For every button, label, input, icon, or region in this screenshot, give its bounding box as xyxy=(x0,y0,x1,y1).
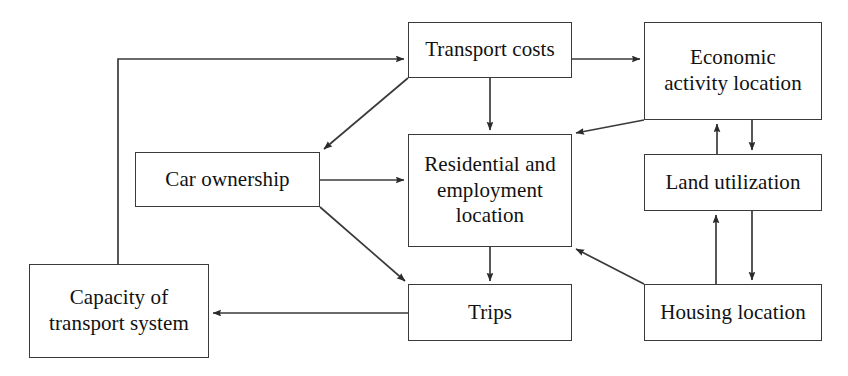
node-housing-location[interactable]: Housing location xyxy=(644,284,822,341)
node-residential-and-employment-location[interactable]: Residential and employment location xyxy=(408,134,572,247)
node-trips[interactable]: Trips xyxy=(408,284,572,341)
node-label: Housing location xyxy=(660,300,806,326)
diagram-canvas: Transport costs Economic activity locati… xyxy=(0,0,848,376)
edge-housing-location-to-residential xyxy=(576,249,644,284)
node-land-utilization[interactable]: Land utilization xyxy=(644,154,822,211)
node-economic-activity-location[interactable]: Economic activity location xyxy=(644,22,822,120)
node-label: Capacity of transport system xyxy=(49,285,189,336)
edge-car-ownership-to-trips xyxy=(320,207,405,281)
node-label: Car ownership xyxy=(165,167,289,193)
node-label: Transport costs xyxy=(425,37,555,63)
node-transport-costs[interactable]: Transport costs xyxy=(408,22,572,78)
node-label: Economic activity location xyxy=(664,45,802,96)
node-car-ownership[interactable]: Car ownership xyxy=(135,152,320,207)
edge-transport-costs-to-car-ownership xyxy=(324,78,408,149)
node-label: Land utilization xyxy=(665,170,800,196)
node-label: Residential and employment location xyxy=(424,152,556,229)
node-capacity-of-transport-system[interactable]: Capacity of transport system xyxy=(29,264,209,358)
edge-economic-activity-to-residential xyxy=(576,120,644,133)
node-label: Trips xyxy=(468,300,512,326)
